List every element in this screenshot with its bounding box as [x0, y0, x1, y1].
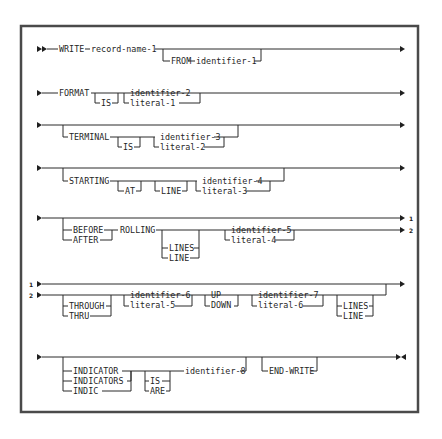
identifier-6: identifier-6: [130, 290, 191, 300]
keyword-is: IS: [101, 98, 111, 108]
start-arrow-icon: [37, 165, 42, 171]
row-rolling: 1 BEFORE AFTER ROLLING 2 LINES LINE iden…: [37, 215, 413, 263]
continue-arrow-icon: [400, 165, 405, 171]
start-arrow-icon: [37, 292, 42, 298]
record-name: record-name-1: [91, 44, 157, 54]
start-arrow-icon: [37, 281, 42, 287]
keyword-write: WRITE: [59, 44, 84, 54]
identifier-7: identifier-7: [258, 290, 319, 300]
start-arrow-icon: [37, 46, 47, 52]
keyword-before: BEFORE: [73, 225, 103, 235]
literal-5: literal-5: [130, 300, 175, 310]
keyword-is: IS: [123, 142, 133, 152]
keyword-line: LINE: [343, 311, 363, 321]
keyword-terminal: TERMINAL: [69, 132, 109, 142]
row-format: FORMAT IS identifier-2 literal-1: [37, 88, 405, 108]
keyword-is: IS: [150, 376, 160, 386]
start-arrow-icon: [37, 354, 42, 360]
syntax-diagram: WRITE record-name-1 FROM identifier-1 FO…: [0, 0, 442, 439]
diagram-frame: [21, 26, 418, 412]
identifier-5: identifier-5: [231, 225, 292, 235]
row-starting: STARTING AT LINE identifier-4 literal-3: [37, 165, 405, 196]
identifier-2: identifier-2: [130, 88, 191, 98]
literal-1: literal-1: [130, 98, 175, 108]
keyword-are: ARE: [150, 386, 165, 396]
keyword-indic: INDIC: [73, 386, 98, 396]
continue-arrow-icon: [400, 281, 405, 287]
keyword-indicators: INDICATORS: [73, 376, 123, 386]
keyword-indicator: INDICATOR: [73, 366, 119, 376]
end-arrow-icon: [396, 354, 406, 360]
literal-4: literal-4: [231, 235, 276, 245]
keyword-through: THROUGH: [69, 301, 104, 311]
continuation-marker-2: 2: [29, 292, 33, 299]
continuation-marker-2: 2: [409, 227, 413, 234]
start-arrow-icon: [37, 90, 42, 96]
keyword-lines: LINES: [343, 301, 368, 311]
keyword-line: LINE: [169, 253, 189, 263]
continue-arrow-icon: [400, 122, 405, 128]
keyword-after: AFTER: [73, 235, 99, 245]
row-through: 1 2 THROUGH THRU identifier-6 literal-5 …: [29, 281, 405, 321]
keyword-up: UP: [211, 290, 221, 300]
continuation-marker-1: 1: [29, 281, 33, 288]
keyword-format: FORMAT: [59, 88, 89, 98]
literal-6: literal-6: [258, 300, 303, 310]
continue-arrow-icon: [400, 227, 405, 233]
keyword-thru: THRU: [69, 311, 89, 321]
row-terminal: TERMINAL IS identifier-3 literal-2: [37, 122, 405, 152]
keyword-at: AT: [125, 186, 135, 196]
start-arrow-icon: [37, 215, 42, 221]
identifier-8: identifier-8: [185, 366, 246, 376]
keyword-rolling: ROLLING: [120, 225, 155, 235]
row-indicator: INDICATOR INDICATORS INDIC IS ARE identi…: [37, 354, 406, 396]
literal-2: literal-2: [160, 142, 205, 152]
start-arrow-icon: [37, 122, 42, 128]
literal-3: literal-3: [202, 186, 247, 196]
identifier-1: identifier-1: [196, 56, 257, 66]
identifier-4: identifier-4: [202, 176, 263, 186]
keyword-starting: STARTING: [69, 176, 109, 186]
identifier-3: identifier-3: [160, 132, 221, 142]
continuation-marker-1: 1: [409, 215, 413, 222]
continue-arrow-icon: [400, 46, 405, 52]
continue-arrow-icon: [400, 90, 405, 96]
keyword-line: LINE: [161, 186, 181, 196]
row-write: WRITE record-name-1 FROM identifier-1: [37, 44, 405, 66]
keyword-lines: LINES: [169, 243, 194, 253]
keyword-end-write: END-WRITE: [269, 366, 314, 376]
continue-arrow-icon: [400, 215, 405, 221]
keyword-down: DOWN: [211, 300, 231, 310]
